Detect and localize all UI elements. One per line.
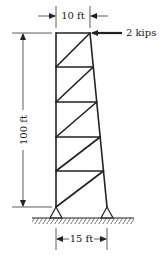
load-label: 2 kips	[126, 27, 156, 38]
height-dimension: 100 ft	[12, 33, 52, 207]
ground	[32, 218, 134, 224]
load-arrow: 2 kips	[92, 27, 156, 38]
truss-tower-diagram: 10 ft 2 kips 100 ft	[0, 0, 163, 257]
right-pin-support	[101, 207, 113, 218]
base-width-dimension: 15 ft	[56, 228, 107, 250]
height-label: 100 ft	[18, 115, 29, 145]
top-width-dimension: 10 ft	[38, 6, 108, 28]
base-width-label: 15 ft	[70, 233, 94, 244]
truss-members	[56, 33, 107, 207]
top-width-label: 10 ft	[61, 10, 85, 21]
left-pin-support	[50, 207, 62, 218]
